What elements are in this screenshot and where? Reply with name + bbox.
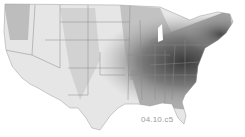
us-map [0, 0, 245, 137]
footer-marks [2, 131, 32, 134]
map-code-label: 04.10.c5 [141, 115, 173, 124]
map-fill [0, 0, 245, 137]
